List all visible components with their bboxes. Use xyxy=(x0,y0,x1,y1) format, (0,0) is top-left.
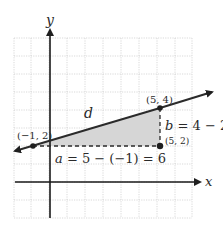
x-axis-label: x xyxy=(205,174,213,189)
b-expression: = 4 − 2 = 2 xyxy=(173,118,223,133)
segment-label-d: d xyxy=(84,105,93,121)
point-label-5-4: (5, 4) xyxy=(146,94,173,105)
point-label-5-2: (5, 2) xyxy=(165,136,189,146)
a-variable: a xyxy=(55,151,63,166)
coordinate-diagram: y x (−1, 2) (5, 4) (5, 2) d a = 5 − (−1)… xyxy=(0,0,223,232)
a-expression: = 5 − (−1) = 6 xyxy=(63,151,166,166)
vertical-leg-label: b = 4 − 2 = 2 xyxy=(165,118,223,133)
point-neg1-2 xyxy=(30,143,36,149)
b-variable: b xyxy=(165,118,173,133)
point-label-neg1-2: (−1, 2) xyxy=(17,130,52,141)
horizontal-leg-label: a = 5 − (−1) = 6 xyxy=(55,151,166,166)
y-axis-label: y xyxy=(45,12,55,28)
point-5-4 xyxy=(157,105,163,111)
point-5-2 xyxy=(157,143,163,149)
